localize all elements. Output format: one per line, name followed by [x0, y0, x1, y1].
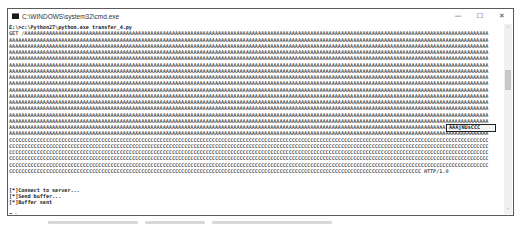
console-line: GET /AAAAAAAAAAAAAAAAAAAAAAAAAAAAAAAAAAA…	[9, 30, 504, 36]
title-bar[interactable]: C:\WINDOWS\system32\cmd.exe — ☐ ✕	[8, 9, 513, 23]
highlighted-return-address: AAAjNUsCCC	[446, 124, 496, 132]
console-output[interactable]: E:\>c:\Python27\python.exe transfer_4.py…	[9, 24, 504, 214]
scroll-down-arrow-icon[interactable]: ˅	[504, 206, 512, 214]
scroll-up-arrow-icon[interactable]: ˄	[504, 24, 512, 32]
scroll-thumb[interactable]	[505, 70, 511, 90]
console-line: E:\>	[9, 212, 504, 215]
console-line: AAAAAAAAAAAAAAAAAAAAAAAAAAAAAAAAAAAAAAAA…	[9, 62, 504, 68]
cmd-window: C:\WINDOWS\system32\cmd.exe — ☐ ✕ E:\>c:…	[7, 8, 514, 216]
console-line: CCCCCCCCCCCCCCCCCCCCCCCCCCCCCCCCCCCCCCCC…	[9, 168, 504, 174]
console-line: AAAAAAAAAAAAAAAAAAAAAAAAAAAAAAAAAAAAAAAA…	[9, 80, 504, 86]
console-line: AAAAAAAAAAAAAAAAAAAAAAAAAAAAAAAAAAAAAAAA…	[9, 87, 504, 93]
maximize-button[interactable]: ☐	[469, 9, 491, 23]
close-button[interactable]: ✕	[491, 9, 513, 23]
console-line: CCCCCCCCCCCCCCCCCCCCCCCCCCCCCCCCCCCCCCCC…	[9, 162, 504, 168]
console-line: CCCCCCCCCCCCCCCCCCCCCCCCCCCCCCCCCCCCCCCC…	[9, 137, 504, 143]
vertical-scrollbar[interactable]: ˄ ˅	[504, 24, 512, 214]
caption-text-blurred	[212, 221, 332, 224]
console-line: AAAAAAAAAAAAAAAAAAAAAAAAAAAAAAAAAAAAAAAA…	[9, 37, 504, 43]
minimize-button[interactable]: —	[447, 9, 469, 23]
window-controls: — ☐ ✕	[447, 9, 513, 23]
console-line: AAAAAAAAAAAAAAAAAAAAAAAAAAAAAAAAAAAAAAAA…	[9, 105, 504, 111]
caption-text-blurred	[145, 221, 205, 224]
console-line: AAAAAAAAAAAAAAAAAAAAAAAAAAAAAAAAAAAAAAAA…	[9, 130, 504, 136]
console-line: AAAAAAAAAAAAAAAAAAAAAAAAAAAAAAAAAAAAAAAA…	[9, 55, 504, 61]
caption-text-blurred	[48, 221, 138, 224]
window-title: C:\WINDOWS\system32\cmd.exe	[22, 13, 119, 20]
console-line: AAAAAAAAAAAAAAAAAAAAAAAAAAAAAAAAAAAAAAAA…	[9, 112, 504, 118]
console-line: CCCCCCCCCCCCCCCCCCCCCCCCCCCCCCCCCCCCCCCC…	[9, 155, 504, 161]
cmd-app-icon	[12, 13, 19, 19]
